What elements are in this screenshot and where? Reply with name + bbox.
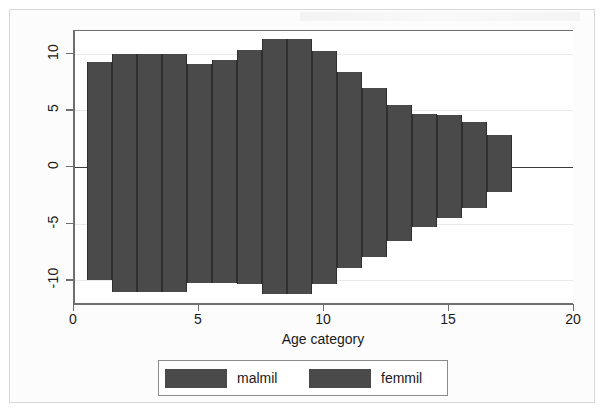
bar-malmil-12 [362,88,387,167]
x-tick-15 [448,304,449,311]
y-tick-10 [66,53,73,54]
y-tick--10 [66,279,73,280]
x-tick-5 [198,304,199,311]
y-tick-label-10: 10 [45,32,61,72]
legend: malmil femmil [158,360,448,396]
bar-malmil-7 [237,50,262,167]
y-tick-0 [66,166,73,167]
bar-malmil-16 [462,122,487,167]
x-tick-label-20: 20 [553,311,593,327]
bar-femmil-15 [437,167,462,218]
y-tick-label-0: 0 [45,145,61,185]
y-tick-label-5: 5 [45,88,61,128]
x-tick-label-10: 10 [303,311,343,327]
bar-femmil-9 [287,167,312,294]
chart-figure: t 1050-5-10 05101520 Age category malmil… [0,0,607,413]
bar-malmil-13 [387,105,412,167]
legend-label-malmil: malmil [237,370,277,386]
bar-femmil-13 [387,167,412,241]
bar-femmil-5 [187,167,212,283]
bar-malmil-9 [287,39,312,167]
bar-malmil-8 [262,39,287,167]
y-axis-line [73,30,75,303]
bar-malmil-5 [187,64,212,167]
y-tick-5 [66,109,73,110]
y-tick--5 [66,223,73,224]
bar-femmil-1 [87,167,112,280]
bar-femmil-12 [362,167,387,257]
bar-malmil-4 [162,54,187,167]
bar-malmil-6 [212,60,237,167]
bar-femmil-8 [262,167,287,294]
y-tick-label--5: -5 [45,202,61,242]
bar-malmil-3 [137,54,162,167]
plot-inner [74,31,573,302]
x-tick-10 [323,304,324,311]
bar-malmil-14 [412,114,437,167]
bar-malmil-17 [487,135,512,167]
x-tick-label-0: 0 [53,311,93,327]
y-tick-label--10: -10 [45,258,61,298]
x-tick-20 [573,304,574,311]
x-tick-label-15: 15 [428,311,468,327]
legend-item-femmil[interactable]: femmil [303,369,447,388]
bar-femmil-6 [212,167,237,283]
bar-femmil-7 [237,167,262,284]
legend-swatch-femmil [309,369,371,388]
legend-label-femmil: femmil [381,370,422,386]
bar-femmil-2 [112,167,137,292]
bar-malmil-1 [87,62,112,167]
legend-swatch-malmil [165,369,227,388]
x-tick-label-5: 5 [178,311,218,327]
bar-femmil-17 [487,167,512,192]
bar-femmil-14 [412,167,437,227]
bar-femmil-11 [337,167,362,268]
bar-malmil-2 [112,54,137,167]
bar-femmil-10 [312,167,337,284]
x-tick-0 [73,304,74,311]
bar-malmil-11 [337,72,362,167]
x-axis-title: Age category [73,331,573,347]
bar-malmil-10 [312,51,337,167]
plot-area [73,30,573,302]
y-axis-title: t [0,174,1,178]
bar-malmil-15 [437,115,462,167]
legend-item-malmil[interactable]: malmil [159,369,303,388]
bar-femmil-4 [162,167,187,292]
bar-femmil-16 [462,167,487,208]
bar-femmil-3 [137,167,162,292]
